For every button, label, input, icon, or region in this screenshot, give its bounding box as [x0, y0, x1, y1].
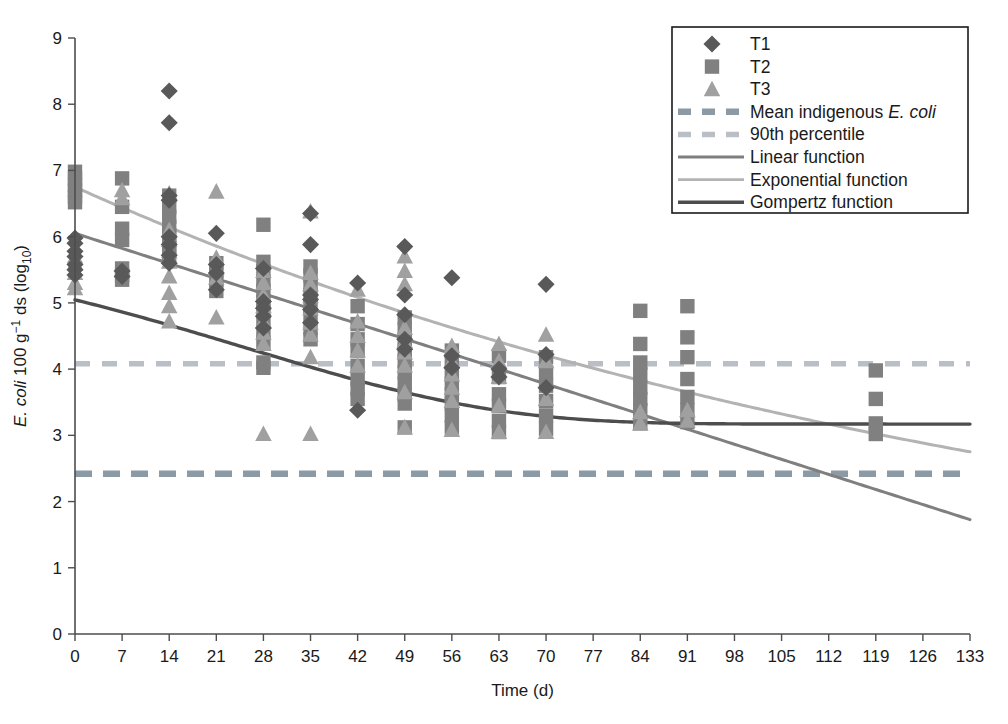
data-point-diamond: [161, 82, 178, 99]
data-point-triangle: [208, 183, 225, 199]
data-point-triangle: [161, 284, 178, 300]
data-point-square: [869, 427, 883, 441]
x-tick-label: 133: [956, 647, 984, 666]
data-point-square: [680, 299, 694, 313]
legend-item-label: Gompertz function: [750, 192, 893, 212]
y-tick-label: 9: [53, 29, 62, 48]
legend-item-hit[interactable]: [674, 78, 966, 101]
x-tick-label: 7: [117, 647, 126, 666]
x-tick-label: 21: [207, 647, 226, 666]
legend-item[interactable]: Linear function: [674, 146, 966, 169]
data-point-square: [680, 350, 694, 364]
data-point-triangle: [396, 263, 413, 279]
x-tick-label: 119: [862, 647, 889, 666]
data-point-triangle: [302, 349, 319, 365]
scatter-plot-svg: 0123456789071421283542495663707784919810…: [0, 0, 1008, 724]
x-axis-title: Time (d): [491, 681, 554, 700]
data-point-triangle: [538, 326, 555, 342]
data-point-square: [705, 59, 719, 73]
legend-item[interactable]: T2: [674, 55, 966, 78]
data-point-diamond: [208, 225, 225, 242]
data-point-diamond: [302, 236, 319, 253]
data-point-triangle: [114, 190, 131, 206]
chart-container: 0123456789071421283542495663707784919810…: [0, 0, 1008, 724]
x-tick-label: 14: [160, 647, 179, 666]
y-tick-label: 4: [53, 360, 62, 379]
legend-item-label: 90th percentile: [750, 124, 865, 144]
legend-item-label: T1: [750, 34, 770, 54]
x-tick-label: 105: [767, 647, 795, 666]
data-point-diamond: [302, 205, 319, 222]
y-tick-label: 2: [53, 493, 62, 512]
data-point-diamond: [443, 269, 460, 286]
data-point-square: [539, 408, 553, 422]
x-tick-label: 112: [815, 647, 842, 666]
x-tick-label: 70: [537, 647, 556, 666]
data-point-triangle: [208, 309, 225, 325]
data-point-diamond: [349, 274, 366, 291]
data-point-square: [633, 337, 647, 351]
data-point-diamond: [161, 114, 178, 131]
y-tick-label: 7: [53, 161, 62, 180]
data-point-square: [680, 330, 694, 344]
svg-text:E. coli 100 g−1 ds (log10): E. coli 100 g−1 ds (log10): [9, 245, 34, 427]
data-point-diamond: [396, 238, 413, 255]
x-tick-label: 77: [584, 647, 603, 666]
x-tick-label: 63: [489, 647, 508, 666]
x-tick-label: 126: [909, 647, 937, 666]
data-point-triangle: [302, 425, 319, 441]
x-tick-label: 84: [631, 647, 650, 666]
legend-item[interactable]: Gompertz function: [674, 191, 966, 214]
data-point-square: [256, 361, 270, 375]
data-point-square: [680, 372, 694, 386]
fit-curves-layer: [75, 187, 970, 520]
legend-item[interactable]: T3: [674, 78, 966, 101]
x-tick-label: 42: [348, 647, 367, 666]
data-point-triangle: [255, 425, 272, 441]
x-tick-label: 0: [70, 647, 79, 666]
data-point-square: [256, 218, 270, 232]
data-point-square: [869, 392, 883, 406]
legend-item[interactable]: 90th percentile: [674, 123, 966, 146]
y-tick-label: 5: [53, 294, 62, 313]
y-tick-label: 3: [53, 426, 62, 445]
legend-item-label: T2: [750, 57, 770, 77]
data-point-square: [633, 304, 647, 318]
x-tick-label: 35: [301, 647, 320, 666]
reference-lines-layer: [75, 364, 970, 474]
x-tick-label: 28: [254, 647, 273, 666]
legend-item-label: T3: [750, 79, 770, 99]
y-axis-title: E. coli 100 g−1 ds (log10): [9, 245, 34, 427]
y-tick-label: 8: [53, 95, 62, 114]
legend[interactable]: T1T2T3Mean indigenous E. coli90th percen…: [672, 27, 968, 214]
x-tick-label: 98: [725, 647, 744, 666]
legend-item-label: Linear function: [750, 147, 865, 167]
data-point-triangle: [161, 298, 178, 314]
y-tick-label: 6: [53, 228, 62, 247]
data-point-square: [115, 233, 129, 247]
legend-item-label: Mean indigenous E. coli: [750, 102, 937, 122]
data-point-diamond: [538, 276, 555, 293]
data-point-square: [869, 363, 883, 377]
x-tick-label: 91: [678, 647, 697, 666]
x-tick-label: 49: [395, 647, 414, 666]
x-tick-label: 56: [442, 647, 461, 666]
data-point-square: [350, 299, 364, 313]
legend-item-label: Exponential function: [750, 170, 908, 190]
y-tick-label: 0: [53, 625, 62, 644]
legend-item[interactable]: Exponential function: [674, 168, 966, 191]
legend-item[interactable]: T1: [674, 33, 966, 56]
data-point-triangle: [161, 313, 178, 329]
data-point-square: [633, 367, 647, 381]
y-tick-label: 1: [53, 559, 62, 578]
legend-item[interactable]: Mean indigenous E. coli: [674, 101, 966, 124]
